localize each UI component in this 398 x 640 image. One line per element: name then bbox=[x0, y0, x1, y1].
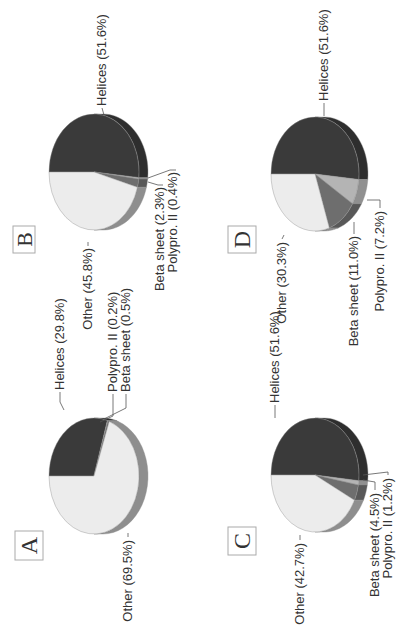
pie-chart-figure: A Helices (29.8%) Polypro. II (0.2%) Bet… bbox=[0, 0, 398, 640]
label-helices: Helices (29.8%) bbox=[52, 298, 67, 390]
label-polypro: Polypro. II (0.4%) bbox=[165, 172, 180, 272]
panel-a: A Helices (29.8%) Polypro. II (0.2%) Bet… bbox=[15, 288, 148, 622]
label-other: Other (45.8%) bbox=[80, 248, 95, 330]
leader-line bbox=[282, 235, 284, 239]
panel-d-letter: D bbox=[229, 231, 255, 248]
pie-a bbox=[49, 418, 148, 534]
panel-b: B Helices (51.6%) Beta sheet (2.3%) Poly… bbox=[12, 14, 180, 329]
label-helices: Helices (51.6%) bbox=[316, 9, 331, 101]
pie-side-beta-sheet bbox=[137, 179, 147, 187]
pie-b bbox=[49, 114, 148, 230]
pie-d bbox=[271, 117, 368, 231]
figure-stage: A Helices (29.8%) Polypro. II (0.2%) Bet… bbox=[0, 0, 398, 640]
pie-side-polypro-ii bbox=[139, 178, 148, 179]
leader-line bbox=[104, 394, 126, 419]
leader-line bbox=[148, 182, 163, 185]
label-polypro: Polypro. II (7.2%) bbox=[372, 211, 387, 311]
pie-c bbox=[271, 418, 368, 532]
label-other: Other (30.3%) bbox=[274, 242, 289, 324]
label-beta-sheet: Beta sheet (0.5%) bbox=[118, 288, 133, 392]
panel-c: C Helices (51.6%) Beta sheet (4.5%) Poly… bbox=[228, 311, 395, 624]
panel-b-letter: B bbox=[12, 232, 37, 247]
panel-d: D Helices (51.6%) Beta sheet (11.0%) Pol… bbox=[228, 9, 387, 346]
leader-line bbox=[367, 200, 380, 208]
label-helices: Helices (51.6%) bbox=[267, 311, 282, 403]
label-beta-sheet: Beta sheet (11.0%) bbox=[346, 236, 361, 346]
panel-c-letter: C bbox=[229, 533, 255, 549]
pie-side-polypro-ii bbox=[358, 481, 367, 485]
panel-a-letter: A bbox=[16, 536, 42, 554]
label-other: Other (69.5%) bbox=[120, 540, 135, 622]
label-other: Other (42.7%) bbox=[292, 543, 307, 625]
label-helices: Helices (51.6%) bbox=[94, 14, 109, 106]
leader-line bbox=[60, 392, 64, 410]
label-polypro: Polypro. II (1.2%) bbox=[380, 478, 395, 578]
